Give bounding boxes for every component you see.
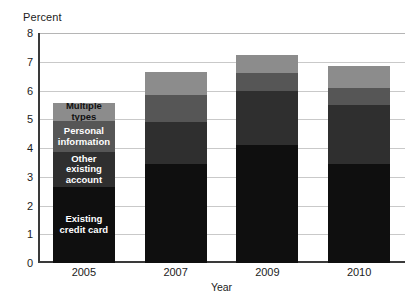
y-axis-tick-label: 3	[3, 171, 33, 182]
x-axis-tick-label: 2005	[72, 266, 96, 278]
bar-2007[interactable]	[145, 72, 207, 263]
x-axis-tick-labels: 2005200720092010	[38, 266, 405, 282]
bar-2009[interactable]	[236, 55, 298, 263]
y-axis-tick-label: 5	[3, 114, 33, 125]
bar-segment[interactable]	[328, 105, 390, 164]
bar-segment[interactable]	[145, 164, 207, 263]
bar-2005[interactable]: Multiple typesPersonal informationOther …	[53, 103, 115, 263]
legend-label-inline: Personal information	[56, 126, 112, 147]
y-axis-tick-labels: 012345678	[0, 33, 33, 263]
x-axis-title: Year	[38, 281, 405, 293]
y-axis-tick-label: 4	[3, 143, 33, 154]
bar-segment[interactable]: Multiple types	[53, 103, 115, 120]
legend-label-inline: Multiple types	[53, 103, 115, 120]
y-axis-title: Percent	[23, 11, 62, 23]
bar-segment[interactable]: Other existing account	[53, 152, 115, 187]
bar-segment[interactable]: Personal information	[53, 121, 115, 153]
bar-segment[interactable]	[236, 145, 298, 263]
bar-segment[interactable]	[328, 88, 390, 105]
bar-segment[interactable]	[328, 164, 390, 263]
bar-2010[interactable]	[328, 66, 390, 263]
bar-segment[interactable]	[328, 66, 390, 88]
y-axis-tick-label: 7	[3, 56, 33, 67]
bar-segment[interactable]	[145, 72, 207, 95]
x-axis-tick-label: 2009	[255, 266, 279, 278]
x-axis-tick-label: 2010	[347, 266, 371, 278]
bar-segment[interactable]: Existing credit card	[53, 187, 115, 263]
y-axis-tick-label: 0	[3, 258, 33, 269]
y-axis-tick-label: 1	[3, 229, 33, 240]
y-axis-tick-label: 8	[3, 28, 33, 39]
legend-label-inline: Other existing account	[53, 154, 115, 186]
x-axis-tick-label: 2007	[163, 266, 187, 278]
y-axis-tick-label: 2	[3, 200, 33, 211]
legend-label-inline: Existing credit card	[58, 214, 111, 235]
bar-segment[interactable]	[236, 91, 298, 146]
stacked-bar-chart: Percent 012345678 Multiple typesPersonal…	[0, 0, 413, 294]
bar-segment[interactable]	[236, 55, 298, 74]
bars-layer: Multiple typesPersonal informationOther …	[38, 33, 405, 263]
bar-segment[interactable]	[145, 95, 207, 122]
bar-segment[interactable]	[236, 73, 298, 90]
y-axis-tick-label: 6	[3, 85, 33, 96]
bar-segment[interactable]	[145, 122, 207, 164]
